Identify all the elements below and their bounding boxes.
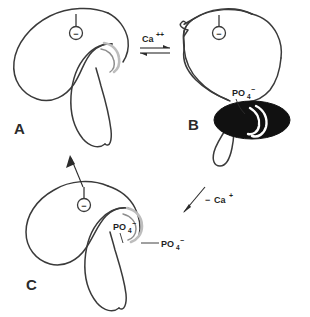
panel-c-phosphate-sup-1: − bbox=[132, 220, 136, 227]
panel-a-inner-fold bbox=[71, 44, 112, 147]
panel-b-phosphate-sub: 4 bbox=[247, 93, 251, 100]
diagram-svg: − A Ca ++ bbox=[0, 0, 310, 317]
panel-b-lower-body bbox=[248, 58, 281, 102]
panel-c-receptor-minus: − bbox=[81, 201, 86, 211]
equilibrium-arrow-top-head bbox=[163, 45, 170, 48]
panel-a-letter: A bbox=[14, 120, 25, 137]
panel-b-receptor-minus: − bbox=[216, 29, 221, 39]
panel-c: − PO 4 − PO 4 − C bbox=[26, 181, 184, 310]
panel-c-phosphate-label-1: PO bbox=[113, 222, 126, 232]
panel-b: − PO 4 − B bbox=[180, 9, 290, 166]
calcium-removal-prefix: − bbox=[205, 195, 210, 205]
panel-c-phosphate-sub-1: 4 bbox=[128, 227, 132, 234]
reverse-reaction: − Ca + bbox=[183, 187, 233, 213]
panel-c-phosphate-label-2: PO bbox=[161, 239, 174, 249]
panel-a-tail bbox=[96, 68, 111, 145]
panel-c-tail bbox=[110, 232, 126, 309]
panel-c-letter: C bbox=[26, 276, 37, 293]
figure-canvas: − A Ca ++ bbox=[0, 0, 310, 317]
calcium-charge: ++ bbox=[156, 31, 164, 38]
panel-b-right-wall bbox=[252, 14, 281, 58]
forward-reaction: Ca ++ bbox=[140, 31, 170, 56]
calcium-removal-charge: + bbox=[229, 192, 233, 199]
panel-b-letter: B bbox=[188, 116, 199, 133]
panel-c-phosphate-sub-2: 4 bbox=[176, 244, 180, 251]
panel-b-upper-outline bbox=[184, 9, 253, 100]
recycle-arrow-head bbox=[66, 155, 75, 168]
calcium-label: Ca bbox=[142, 34, 154, 44]
panel-a-cell-outline bbox=[14, 8, 112, 100]
panel-b-phosphate-sup: − bbox=[251, 86, 255, 93]
panel-c-phosphate-sup-2: − bbox=[180, 237, 184, 244]
reverse-arrow-head bbox=[183, 204, 191, 213]
calcium-removal-label: Ca bbox=[214, 195, 226, 205]
panel-a-shaded-patch bbox=[104, 43, 119, 72]
panel-a-shaded-patch-inner bbox=[101, 49, 114, 72]
panel-c-phosphate-leader-1 bbox=[120, 233, 123, 243]
panel-a-receptor-minus: − bbox=[73, 29, 78, 39]
panel-a: − A bbox=[14, 8, 129, 146]
equilibrium-arrow-bottom-head bbox=[140, 53, 147, 56]
panel-b-phosphate-label: PO bbox=[232, 88, 245, 98]
